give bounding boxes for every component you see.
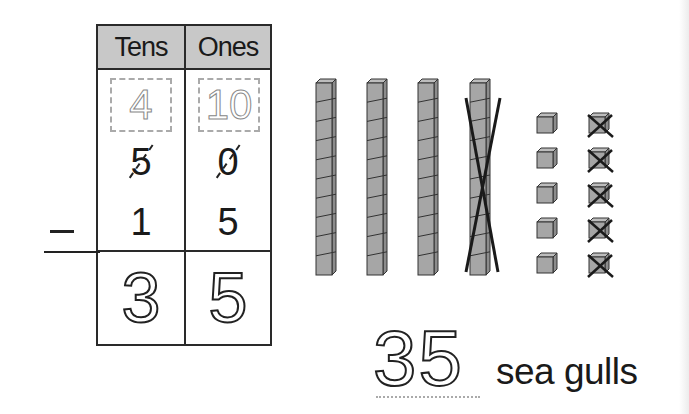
answer-label: sea gulls (496, 352, 638, 392)
answer-line (376, 394, 480, 398)
tens-rod (418, 79, 438, 275)
tens-rod (316, 79, 336, 275)
tens-rod-crossed (466, 79, 500, 275)
answer-value: 35 (373, 314, 464, 402)
ones-units-crossed (588, 113, 613, 277)
answer-number: 35 (373, 318, 483, 382)
ones-units (537, 113, 557, 273)
tens-rod (367, 79, 387, 275)
